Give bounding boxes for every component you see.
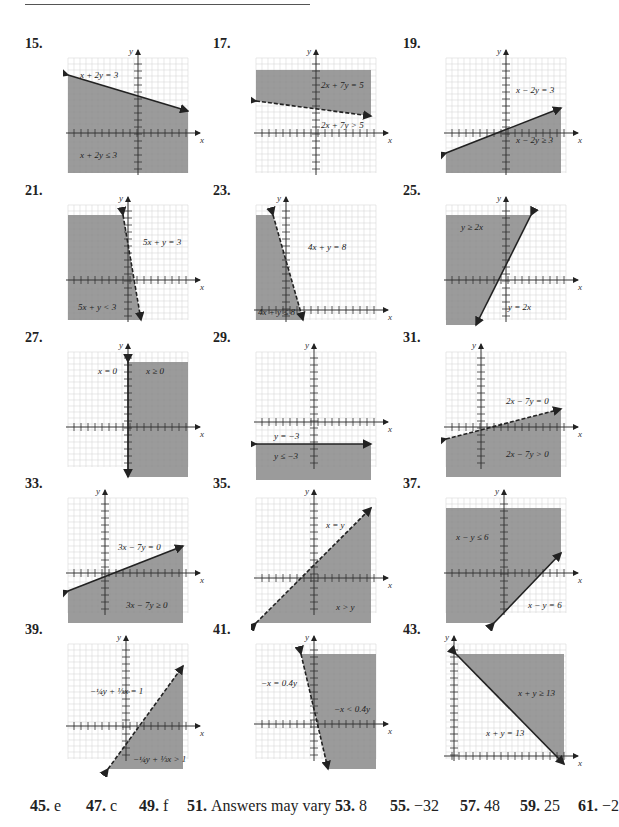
equation-label: x = y: [325, 520, 345, 530]
equation-label: x + 2y = 3: [79, 70, 119, 80]
coordinate-graph: x y y = 2x y ≥ 2x: [441, 193, 611, 338]
inequality-label: x + 2y ≤ 3: [79, 150, 118, 160]
svg-text:x: x: [199, 135, 204, 145]
equation-label: −x = 0.4y: [261, 678, 297, 688]
problem-number: 23.: [213, 183, 231, 199]
equation-label: 2x − 7y = 0: [506, 396, 549, 406]
problem-number: 21.: [25, 183, 43, 199]
svg-text:x: x: [387, 580, 392, 590]
svg-text:x: x: [577, 135, 582, 145]
svg-text:y: y: [304, 632, 309, 642]
svg-text:x: x: [199, 728, 204, 738]
inequality-label: −x < 0.4y: [334, 704, 370, 714]
coordinate-graph: x y x − 2y = 3 x − 2y ≥ 3: [441, 46, 611, 191]
svg-text:x: x: [199, 282, 204, 292]
inequality-label: y ≥ 2x: [460, 222, 483, 232]
svg-text:y: y: [128, 46, 133, 56]
inequality-label: x ≥ 0: [145, 366, 164, 376]
graph-problem-31: 31. x y 2x − 7y = 0 2x − 7y > 0: [403, 330, 593, 480]
problem-number: 33.: [25, 476, 43, 492]
inequality-label: x + y ≥ 13: [517, 688, 556, 698]
svg-text:y: y: [118, 340, 123, 350]
problem-number: 17.: [213, 36, 231, 52]
graph-problem-39: 39. x y −¼y + ⅓x = 1 −¼y + ⅓x > 1: [25, 622, 215, 772]
graph-problem-15: 15. x y x + 2y = 3 x + 2y ≤ 3: [25, 36, 215, 186]
svg-text:y: y: [116, 632, 121, 642]
problem-number: 39.: [25, 622, 43, 638]
svg-text:y: y: [304, 486, 309, 496]
graph-problem-33: 33. x y 3x − 7y = 0 3x − 7y ≥ 0: [25, 476, 215, 626]
graph-problem-41: 41. x y −x = 0.4y −x < 0.4y: [213, 622, 403, 772]
svg-text:y: y: [304, 340, 309, 350]
graph-problem-21: 21. x y 5x + y = 3 5x + y < 3: [25, 183, 215, 333]
coordinate-graph: x y −x = 0.4y −x < 0.4y: [251, 632, 421, 777]
svg-text:x: x: [199, 429, 204, 439]
coordinate-graph: x y 2x − 7y = 0 2x − 7y > 0: [441, 340, 611, 485]
answer-61: 61.−2: [578, 797, 619, 815]
coordinate-graph: x y x = y x > y: [251, 486, 421, 631]
svg-text:x: x: [577, 758, 582, 768]
inequality-label: −¼y + ⅓x > 1: [133, 754, 186, 764]
equation-label: 5x + y = 3: [143, 237, 182, 247]
coordinate-graph: x y y = −3 y ≤ −3: [251, 340, 421, 485]
graph-problem-43: 43. x y x + y = 13 x + y ≥ 13: [403, 622, 593, 772]
graph-problem-27: 27. x y x = 0 x ≥ 0: [25, 330, 215, 480]
answer-55: 55.−32: [390, 797, 439, 815]
inequality-label: 4x + y ≤ 8: [258, 307, 296, 317]
equation-label: 3x − 7y = 0: [117, 542, 161, 552]
coordinate-graph: x y x + 2y = 3 x + 2y ≤ 3: [63, 46, 233, 191]
svg-text:x: x: [387, 726, 392, 736]
svg-text:y: y: [496, 46, 501, 56]
coordinate-graph: x y −¼y + ⅓x = 1 −¼y + ⅓x > 1: [63, 632, 233, 777]
problem-number: 37.: [403, 476, 421, 492]
answer-45: 45.e: [30, 797, 61, 815]
inequality-label: x − 2y ≥ 3: [515, 135, 554, 145]
answer-51: 51.Answers may vary: [187, 797, 331, 815]
graph-problem-19: 19. x y x − 2y = 3 x − 2y ≥ 3: [403, 36, 593, 186]
svg-text:y: y: [276, 193, 281, 203]
svg-text:y: y: [118, 193, 123, 203]
inequality-label: 2x − 7y > 0: [506, 449, 549, 459]
coordinate-graph: x y x = 0 x ≥ 0: [63, 340, 233, 485]
equation-label: x + y = 13: [485, 728, 525, 738]
graph-problem-23: 23. x y 4x + y = 8 4x + y ≤ 8: [213, 183, 403, 333]
answer-49: 49.f: [139, 797, 168, 815]
coordinate-graph: x y 5x + y = 3 5x + y < 3: [63, 193, 233, 338]
inequality-label: 2x + 7y > 5: [321, 120, 364, 130]
svg-text:y: y: [306, 46, 311, 56]
inequality-label: y ≤ −3: [273, 451, 299, 461]
equation-label: x − 2y = 3: [515, 85, 555, 95]
answer-59: 59.25: [520, 797, 560, 815]
svg-text:y: y: [471, 340, 476, 350]
svg-text:x: x: [199, 575, 204, 585]
coordinate-graph: x y 2x + 7y = 5 2x + 7y > 5: [251, 46, 421, 191]
problem-number: 27.: [25, 330, 43, 346]
svg-text:y: y: [494, 486, 499, 496]
coordinate-graph: x y 3x − 7y = 0 3x − 7y ≥ 0: [63, 486, 233, 631]
svg-text:x: x: [387, 135, 392, 145]
equation-label: 4x + y = 8: [308, 242, 347, 252]
svg-text:x: x: [387, 424, 392, 434]
problem-number: 19.: [403, 36, 421, 52]
coordinate-graph: x y x − y = 6 x − y ≤ 6: [441, 486, 611, 631]
problem-number: 15.: [25, 36, 43, 52]
equation-label: x − y = 6: [527, 600, 562, 610]
header-rule: [25, 4, 310, 5]
inequality-label: 5x + y < 3: [78, 302, 117, 312]
graph-problem-35: 35. x y x = y x > y: [213, 476, 403, 626]
graph-problem-37: 37. x y x − y = 6 x − y ≤ 6: [403, 476, 593, 626]
problem-number: 41.: [213, 622, 231, 638]
equation-label: y = 2x: [507, 302, 531, 312]
svg-text:y: y: [95, 486, 100, 496]
problem-number: 43.: [403, 622, 421, 638]
answer-53: 53.8: [335, 797, 367, 815]
svg-text:y: y: [496, 193, 501, 203]
equation-label: 2x + 7y = 5: [321, 80, 364, 90]
problem-number: 31.: [403, 330, 421, 346]
shaded-region: [128, 362, 188, 477]
answer-47: 47.c: [86, 797, 117, 815]
inequality-label: x > y: [335, 602, 355, 612]
svg-text:x: x: [387, 312, 392, 322]
equation-label: −¼y + ⅓x = 1: [90, 686, 143, 696]
svg-text:x: x: [577, 575, 582, 585]
